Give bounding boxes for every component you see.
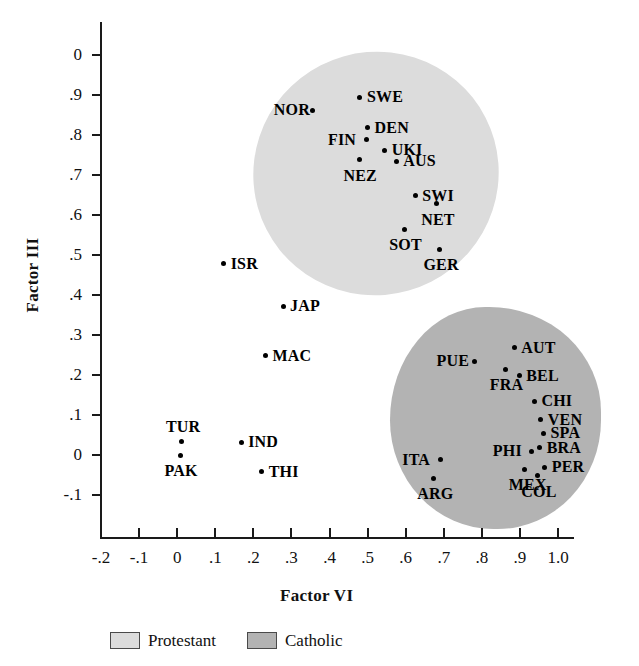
data-point-label: FIN — [328, 132, 356, 148]
data-point — [529, 449, 534, 454]
data-point-label: DEN — [375, 120, 409, 136]
x-tick-mark — [443, 528, 445, 538]
x-axis-line — [100, 537, 574, 539]
y-axis-line — [100, 22, 102, 539]
y-axis-title: Factor III — [23, 220, 43, 330]
data-point-label: MAC — [273, 348, 312, 364]
data-point-label: NET — [421, 212, 455, 228]
data-point-label: TUR — [166, 419, 200, 435]
y-tick-label: .6 — [36, 206, 82, 223]
x-tick-mark — [519, 528, 521, 538]
y-tick-label: .2 — [36, 366, 82, 383]
x-axis-title: Factor VI — [280, 586, 353, 606]
data-point — [263, 353, 268, 358]
data-point — [402, 227, 407, 232]
x-tick-mark — [290, 528, 292, 538]
y-tick-mark — [92, 294, 102, 296]
data-point — [522, 467, 527, 472]
y-tick-mark — [92, 254, 102, 256]
x-tick-mark — [100, 528, 102, 538]
data-point-label: PAK — [164, 463, 197, 479]
data-point-label: BEL — [526, 368, 559, 384]
y-tick-label: .9 — [36, 86, 82, 103]
y-tick-mark — [92, 334, 102, 336]
y-tick-mark — [92, 414, 102, 416]
data-point — [310, 108, 315, 113]
data-point — [382, 148, 387, 153]
data-point — [542, 465, 547, 470]
legend-label-protestant: Protestant — [148, 631, 216, 651]
data-point-label: AUS — [403, 153, 436, 169]
data-point — [281, 304, 286, 309]
data-point-label: GER — [423, 257, 458, 273]
y-tick-mark — [92, 174, 102, 176]
data-point-label: JAP — [290, 298, 320, 314]
data-point — [431, 476, 436, 481]
data-point-label: IND — [248, 434, 278, 450]
data-point-label: PHI — [493, 443, 522, 459]
x-tick-mark — [405, 528, 407, 538]
y-tick-label: .8 — [36, 126, 82, 143]
data-point — [535, 473, 540, 478]
x-tick-mark — [557, 528, 559, 538]
data-point — [178, 453, 183, 458]
data-point — [517, 373, 522, 378]
data-point — [437, 247, 442, 252]
x-tick-mark — [252, 528, 254, 538]
data-point-label: THI — [269, 464, 299, 480]
x-tick-mark — [481, 528, 483, 538]
data-point-label: ITA — [402, 452, 430, 468]
data-point-label: CHI — [541, 393, 572, 409]
data-point — [541, 431, 546, 436]
y-tick-label: .1 — [36, 406, 82, 423]
legend-swatch-protestant — [110, 632, 140, 649]
data-point-label: COL — [521, 484, 556, 500]
data-point-label: PER — [552, 459, 585, 475]
data-point — [239, 440, 244, 445]
x-tick-label: 1.0 — [536, 549, 580, 566]
data-point — [532, 399, 537, 404]
x-tick-mark — [176, 528, 178, 538]
data-point-label: NEZ — [343, 168, 377, 184]
y-tick-mark — [92, 134, 102, 136]
y-tick-label: .7 — [36, 166, 82, 183]
legend-swatch-catholic — [247, 632, 277, 649]
y-tick-mark — [92, 214, 102, 216]
data-point-label: FRA — [490, 377, 523, 393]
data-point-label: SOT — [389, 237, 422, 253]
y-tick-mark — [92, 454, 102, 456]
y-tick-mark — [92, 374, 102, 376]
y-tick-label: .3 — [36, 326, 82, 343]
y-tick-mark — [92, 94, 102, 96]
x-tick-mark — [367, 528, 369, 538]
data-point — [221, 261, 226, 266]
y-tick-label: .5 — [36, 246, 82, 263]
data-point-label: BRA — [547, 440, 581, 456]
data-point-label: ISR — [231, 256, 258, 272]
data-point-label: AUT — [521, 340, 555, 356]
data-point-label: ARG — [417, 486, 453, 502]
scatter-plot: Factor III Factor VI 0.9.8.7.6.5.4.3.2.1… — [0, 0, 639, 666]
y-tick-label: -.1 — [36, 486, 82, 503]
data-point-label: SWE — [367, 89, 403, 105]
y-tick-label: 0 — [36, 446, 82, 463]
x-tick-mark — [214, 528, 216, 538]
y-tick-mark — [92, 494, 102, 496]
data-point — [179, 439, 184, 444]
y-tick-label: .4 — [36, 286, 82, 303]
x-tick-mark — [329, 528, 331, 538]
legend-label-catholic: Catholic — [285, 631, 343, 651]
data-point — [503, 367, 508, 372]
data-point-label: NOR — [274, 102, 310, 118]
data-point — [259, 469, 264, 474]
x-tick-mark — [138, 528, 140, 538]
y-tick-label: 0 — [36, 46, 82, 63]
data-point — [394, 159, 399, 164]
y-tick-mark — [92, 54, 102, 56]
data-point-label: PUE — [436, 353, 469, 369]
